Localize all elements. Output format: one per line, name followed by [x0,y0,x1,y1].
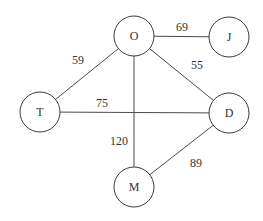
edge-weight-o-j: 69 [176,20,188,34]
edge-weight-d-m: 89 [190,156,202,170]
edge-o-t [56,49,119,100]
node-label: O [130,29,139,43]
graph-diagram: OJTDM 6959557512089 [0,0,263,221]
edge-weight-o-d: 55 [191,58,203,72]
node-m: M [114,167,154,207]
node-o: O [114,16,154,56]
node-label: J [227,30,232,44]
node-label: D [225,106,234,120]
edge-o-d [150,49,214,101]
edge-d-m [150,125,213,174]
node-d: D [209,93,249,133]
edge-weight-o-m: 120 [110,134,128,148]
node-t: T [20,92,60,132]
node-label: T [36,105,44,119]
node-j: J [209,17,249,57]
edge-weight-o-t: 59 [72,53,84,67]
edge-o-j [154,36,209,37]
node-label: M [129,180,140,194]
edge-weight-t-d: 75 [96,96,108,110]
